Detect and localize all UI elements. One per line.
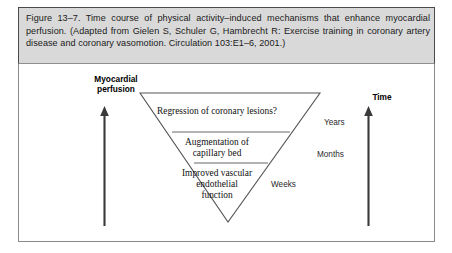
tier-2-text-line2: capillary bed bbox=[147, 148, 287, 159]
time-axis-arrow bbox=[364, 106, 373, 226]
tier-3-text: Improved vascular endothelial function bbox=[147, 168, 287, 201]
perfusion-axis-arrowhead bbox=[100, 106, 109, 116]
time-axis-arrowhead bbox=[364, 106, 373, 116]
figure-caption-text: Figure 13–7. Time course of physical act… bbox=[26, 12, 430, 50]
myocardial-perfusion-label-line1: Myocardial bbox=[76, 74, 156, 84]
tier-2-text: Augmentation of capillary bed bbox=[147, 137, 287, 159]
tier-1-text: Regression of coronary lesions? bbox=[127, 106, 307, 117]
perfusion-axis-arrow bbox=[100, 106, 109, 226]
myocardial-perfusion-label: Myocardial perfusion bbox=[76, 74, 156, 94]
scale-label-weeks: Weeks bbox=[271, 180, 296, 189]
figure-caption-band: Figure 13–7. Time course of physical act… bbox=[18, 7, 435, 64]
scale-label-years: Years bbox=[324, 118, 345, 127]
myocardial-perfusion-label-line2: perfusion bbox=[76, 84, 156, 94]
tier-3-text-line1: Improved vascular bbox=[147, 168, 287, 179]
figure-screenshot: Figure 13–7. Time course of physical act… bbox=[0, 0, 452, 253]
figure-diagram: Myocardial perfusion Time Regression of … bbox=[19, 64, 434, 241]
tier-1-text-line1: Regression of coronary lesions? bbox=[127, 106, 307, 117]
scale-label-months: Months bbox=[317, 150, 344, 159]
tier-3-text-line2: endothelial bbox=[147, 179, 287, 190]
time-axis-label: Time bbox=[360, 92, 404, 102]
tier-2-text-line1: Augmentation of bbox=[147, 137, 287, 148]
tier-3-text-line3: function bbox=[147, 190, 287, 201]
